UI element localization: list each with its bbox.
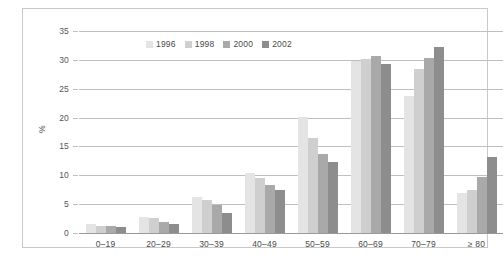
bar xyxy=(212,205,222,233)
y-tick-label: 15 xyxy=(43,142,69,151)
y-tick-mark xyxy=(73,204,78,205)
bar-group xyxy=(79,31,132,233)
y-tick-label: 25 xyxy=(43,85,69,94)
x-axis-labels: 0–1920–2930–3940–4950–5960–6970–79≥ 80 xyxy=(79,239,503,249)
bar xyxy=(318,154,328,233)
bar xyxy=(106,226,116,233)
bar xyxy=(245,173,255,233)
bar xyxy=(328,162,338,233)
bar-groups xyxy=(79,31,503,233)
x-tick-label: 30–39 xyxy=(185,239,238,249)
bar-group xyxy=(291,31,344,233)
legend-label: 2002 xyxy=(272,39,292,49)
y-tick-label: 30 xyxy=(43,56,69,65)
y-tick-label: 0 xyxy=(43,229,69,238)
bar xyxy=(116,227,126,233)
bar xyxy=(298,117,308,233)
bar xyxy=(487,157,497,233)
bar-group xyxy=(185,31,238,233)
bar xyxy=(308,138,318,233)
legend-label: 1998 xyxy=(195,39,215,49)
legend-item: 1998 xyxy=(185,39,215,49)
legend-item: 2000 xyxy=(223,39,253,49)
bar xyxy=(96,226,106,234)
y-axis-title: % xyxy=(37,125,47,133)
bar xyxy=(404,96,414,233)
bar xyxy=(381,64,391,233)
y-tick-label: 10 xyxy=(43,171,69,180)
y-tick-mark xyxy=(73,118,78,119)
bar xyxy=(202,200,212,233)
bar xyxy=(86,224,96,233)
bar xyxy=(477,177,487,233)
x-tick-label: ≥ 80 xyxy=(450,239,503,249)
x-tick-label: 70–79 xyxy=(397,239,450,249)
bar xyxy=(434,47,444,233)
x-tick-label: 0–19 xyxy=(79,239,132,249)
legend-swatch-icon xyxy=(185,41,192,48)
bar xyxy=(159,222,169,233)
bar xyxy=(424,58,434,233)
legend-item: 1996 xyxy=(146,39,176,49)
y-tick-mark xyxy=(73,175,78,176)
chart-frame: % 05101520253035 0–1920–2930–3940–4950–5… xyxy=(22,8,488,248)
bar-group xyxy=(450,31,503,233)
y-tick-mark xyxy=(73,233,78,234)
bar-group xyxy=(344,31,397,233)
x-tick-label: 50–59 xyxy=(291,239,344,249)
bar xyxy=(457,193,467,233)
bar xyxy=(351,61,361,233)
x-tick-label: 60–69 xyxy=(344,239,397,249)
bar xyxy=(371,56,381,233)
bar xyxy=(222,213,232,233)
bar xyxy=(467,190,477,233)
y-tick-mark xyxy=(73,146,78,147)
legend-item: 2002 xyxy=(262,39,292,49)
bar xyxy=(139,217,149,233)
bar xyxy=(255,178,265,233)
legend-swatch-icon xyxy=(262,41,269,48)
legend-swatch-icon xyxy=(223,41,230,48)
bar xyxy=(149,218,159,233)
figure-caption xyxy=(24,249,470,256)
legend-swatch-icon xyxy=(146,41,153,48)
bar-group xyxy=(132,31,185,233)
bar xyxy=(192,197,202,233)
y-tick-mark xyxy=(73,31,78,32)
bar xyxy=(265,185,275,233)
y-tick-label: 35 xyxy=(43,27,69,36)
y-tick-mark xyxy=(73,60,78,61)
x-tick-label: 40–49 xyxy=(238,239,291,249)
legend-label: 1996 xyxy=(156,39,176,49)
gridline-0 xyxy=(79,233,503,234)
bar xyxy=(414,69,424,233)
plot-area xyxy=(79,31,503,233)
y-tick-mark xyxy=(73,89,78,90)
y-tick-label: 20 xyxy=(43,114,69,123)
bar xyxy=(275,190,285,233)
x-tick-label: 20–29 xyxy=(132,239,185,249)
chart-legend: 1996199820002002 xyxy=(143,38,295,50)
y-tick-label: 5 xyxy=(43,200,69,209)
legend-label: 2000 xyxy=(233,39,253,49)
bar xyxy=(361,59,371,233)
bar xyxy=(169,224,179,233)
bar-group xyxy=(397,31,450,233)
bar-group xyxy=(238,31,291,233)
